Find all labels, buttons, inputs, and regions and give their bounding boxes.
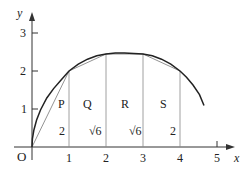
y-tick-label-2: 2 xyxy=(20,65,26,77)
y-tick-label-1: 1 xyxy=(21,103,27,115)
x-tick-label-1: 1 xyxy=(66,152,72,164)
x-tick-label-4: 4 xyxy=(177,152,183,164)
y-tick-label-3: 3 xyxy=(20,27,26,39)
region-label-r: R xyxy=(121,98,129,110)
region-label-s: S xyxy=(160,98,167,110)
diagram-canvas xyxy=(0,0,250,175)
x-tick-label-2: 2 xyxy=(103,152,109,164)
x-axis-label: x xyxy=(234,152,239,164)
origin-label: O xyxy=(17,150,26,163)
width-label-r: √6 xyxy=(129,125,142,137)
x-axis-arrow-icon xyxy=(226,144,235,150)
y-axis-label: y xyxy=(17,7,22,19)
width-label-p: 2 xyxy=(59,125,65,137)
y-axis-arrow-icon xyxy=(29,12,35,21)
width-label-q: √6 xyxy=(89,125,102,137)
x-tick-label-3: 3 xyxy=(140,152,146,164)
width-label-s: 2 xyxy=(170,125,176,137)
x-tick-label-5: 5 xyxy=(214,152,220,164)
region-label-q: Q xyxy=(83,98,92,110)
region-label-p: P xyxy=(58,98,65,110)
